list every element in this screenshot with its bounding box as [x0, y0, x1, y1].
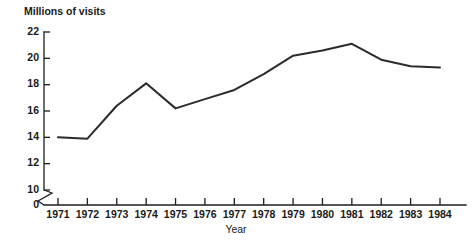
x-tick-label-1973: 1973	[105, 208, 129, 220]
x-tick-label-1977: 1977	[223, 208, 247, 220]
x-tick-label-1974: 1974	[134, 208, 158, 220]
y-axis-ticks	[44, 32, 50, 190]
x-tick-label-1975: 1975	[164, 208, 188, 220]
data-series-line	[58, 44, 440, 139]
x-tick-label-1984: 1984	[428, 208, 452, 220]
x-axis-title: Year	[225, 223, 247, 235]
x-tick-label-1976: 1976	[193, 208, 217, 220]
y-axis-tick-labels: 101214161820220	[27, 25, 39, 210]
x-axis-ticks	[58, 198, 440, 205]
x-tick-label-1979: 1979	[281, 208, 305, 220]
y-axis-title: Millions of visits	[24, 5, 106, 17]
y-tick-label-0: 0	[33, 198, 39, 210]
chart-container: Millions of visits 101214161820220 19711…	[0, 0, 476, 244]
y-tick-label-10: 10	[27, 183, 39, 195]
x-tick-label-1978: 1978	[252, 208, 276, 220]
x-tick-label-1981: 1981	[340, 208, 364, 220]
x-tick-label-1972: 1972	[76, 208, 100, 220]
x-tick-label-1983: 1983	[399, 208, 423, 220]
x-axis-tick-labels: 1971197219731974197519761977197819791980…	[46, 208, 452, 220]
y-tick-label-16: 16	[27, 104, 39, 116]
y-tick-label-18: 18	[27, 77, 39, 89]
x-tick-label-1971: 1971	[46, 208, 70, 220]
x-tick-label-1980: 1980	[311, 208, 335, 220]
line-chart: Millions of visits 101214161820220 19711…	[0, 0, 476, 244]
x-tick-label-1982: 1982	[370, 208, 394, 220]
y-tick-label-14: 14	[27, 130, 39, 142]
y-tick-label-12: 12	[27, 156, 39, 168]
y-tick-label-22: 22	[27, 25, 39, 37]
y-tick-label-20: 20	[27, 51, 39, 63]
y-axis-break-icon	[38, 190, 52, 205]
